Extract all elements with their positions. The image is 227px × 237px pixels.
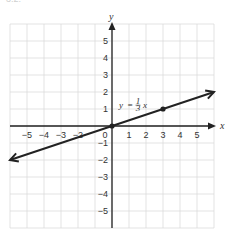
x-tick-label: −3 [56, 130, 66, 140]
x-tick-label: 3 [160, 130, 165, 140]
equation-y: y [118, 100, 123, 110]
y-tick-label: −1 [98, 138, 108, 148]
y-tick-label: −4 [98, 189, 108, 199]
y-tick-label: 1 [103, 104, 108, 114]
x-axis-label: x [219, 120, 225, 131]
y-axis-label: y [108, 11, 114, 22]
point-marker [160, 106, 165, 111]
x-tick-label: −5 [22, 130, 32, 140]
y-tick-label: −5 [98, 206, 108, 216]
y-tick-label: 5 [103, 36, 108, 46]
y-tick-label: −2 [98, 155, 108, 165]
annotations: y=13x [118, 96, 147, 113]
y-tick-label: 3 [103, 70, 108, 80]
equation-frac-den: 3 [135, 103, 141, 113]
x-tick-label: 5 [194, 130, 199, 140]
equation-x: x [142, 100, 147, 110]
y-tick-label: −3 [98, 172, 108, 182]
coordinate-plane: xy −5−4−3−201234554321−1−2−3−4−5 y=13x [0, 0, 227, 237]
x-tick-label: 2 [143, 130, 148, 140]
x-tick-label: 1 [126, 130, 131, 140]
x-tick-label: 4 [177, 130, 182, 140]
y-axis-arrow-icon [109, 22, 116, 30]
y-tick-label: 4 [103, 53, 108, 63]
equation-equals: = [127, 100, 133, 110]
x-axis-arrow-icon [208, 123, 216, 130]
axes: xy [10, 11, 225, 228]
x-tick-label: −4 [39, 130, 49, 140]
point-marker [109, 123, 114, 128]
y-tick-label: 2 [103, 87, 108, 97]
